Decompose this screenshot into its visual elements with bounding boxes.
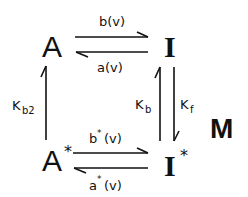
- label-K-b: K b: [135, 97, 151, 115]
- label-K-b-sub: b: [145, 104, 151, 115]
- arrow-A-star-to-A: [41, 66, 46, 140]
- arrow-I-star-to-A-star: [74, 168, 148, 173]
- arrow-I-star-to-I: [155, 67, 160, 141]
- label-b-star-v: b * (v): [89, 128, 122, 146]
- node-A-star-letter: A: [42, 144, 62, 177]
- arrow-I-to-I-star: [174, 67, 179, 141]
- node-I-star: I *: [164, 146, 188, 182]
- label-a-star-arg: (v): [104, 178, 122, 193]
- label-K-b-main: K: [135, 97, 144, 112]
- label-K-f: K f: [180, 97, 194, 115]
- label-K-b2-sub: b2: [22, 105, 35, 116]
- node-A-star: A *: [42, 142, 72, 177]
- node-I: I: [164, 30, 176, 63]
- label-K-f-sub: f: [190, 104, 194, 115]
- arrow-A-star-to-I-star: [73, 148, 148, 153]
- label-K-b2-main: K: [12, 98, 21, 113]
- node-A: A: [42, 30, 62, 63]
- label-a-star-main: a: [89, 178, 97, 193]
- label-a-star-v: a * (v): [89, 174, 122, 193]
- kinetic-scheme-diagram: A I A * I * M b(v) a(v) b * (v) a * (v): [0, 0, 248, 197]
- label-a-v: a(v): [97, 60, 123, 75]
- label-b-star-asterisk: *: [97, 128, 102, 138]
- label-b-star-arg: (v): [104, 131, 122, 146]
- node-I-star-asterisk: *: [180, 146, 188, 165]
- label-a-star-asterisk: *: [97, 174, 102, 184]
- label-K-f-main: K: [180, 97, 189, 112]
- side-label-M: M: [210, 113, 233, 144]
- label-b-v: b(v): [99, 14, 125, 29]
- arrow-A-to-I: [75, 32, 148, 37]
- node-I-star-letter: I: [164, 149, 176, 182]
- node-A-star-asterisk: *: [64, 142, 72, 161]
- arrow-I-to-A: [76, 52, 148, 57]
- label-K-b2: K b2: [12, 98, 35, 116]
